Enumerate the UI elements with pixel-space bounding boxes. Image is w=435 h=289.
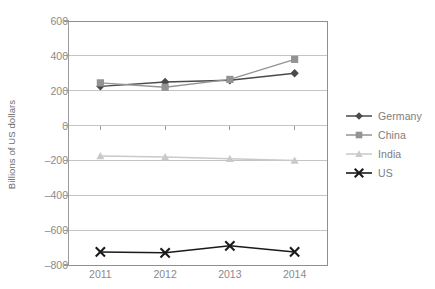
x-tick-label: 2014 (265, 268, 325, 280)
square-marker (356, 131, 363, 138)
legend-item-us[interactable]: US (344, 163, 432, 182)
x-tick-label: 2013 (200, 268, 260, 280)
legend-swatch-diamond-icon (344, 109, 374, 123)
line-chart: Billions of US dollars 6004002000–200–40… (0, 0, 435, 289)
legend-swatch-cross-icon (344, 166, 374, 180)
legend-label: China (374, 129, 406, 141)
legend-swatch-triangle-icon (344, 147, 374, 161)
legend-item-china[interactable]: China (344, 125, 432, 144)
legend-item-germany[interactable]: Germany (344, 106, 432, 125)
diamond-marker (355, 112, 363, 120)
legend-label: US (374, 167, 393, 179)
legend-label: India (374, 148, 401, 160)
legend-item-india[interactable]: India (344, 144, 432, 163)
legend-label: Germany (374, 110, 422, 122)
x-tick-label: 2012 (135, 268, 195, 280)
chart-legend: GermanyChinaIndiaUS (344, 106, 432, 182)
legend-swatch-square-icon (344, 128, 374, 142)
x-tick-label: 2011 (70, 268, 130, 280)
data-point-marker (356, 131, 363, 138)
data-point-marker (355, 112, 363, 120)
